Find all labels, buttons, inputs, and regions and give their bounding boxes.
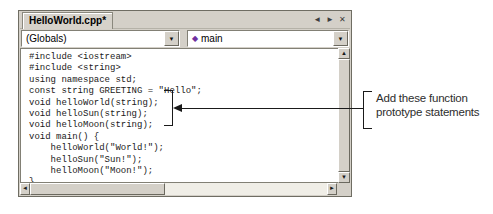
scope-dropdown[interactable]: (Globals) ▼ xyxy=(21,30,180,47)
callout-text-line2: prototype statements xyxy=(376,106,479,120)
scope-dropdown-button[interactable]: ▼ xyxy=(164,31,179,46)
chevron-right-icon: ► xyxy=(326,15,334,24)
arrow-right-icon: ► xyxy=(329,185,335,191)
tab-bar: HelloWorld.cpp* ◄ ► ✕ xyxy=(20,11,350,29)
callout-text: Add these function prototype statements xyxy=(376,92,479,119)
code-region: #include <iostream> #include <string> us… xyxy=(20,48,350,183)
tab-nav-buttons: ◄ ► ✕ xyxy=(313,15,346,25)
callout-bracket-code xyxy=(164,90,173,126)
code-line: void helloSun(string); xyxy=(29,109,338,120)
arrow-down-icon: ▼ xyxy=(341,174,347,180)
vertical-scrollbar[interactable]: ▲ ▼ xyxy=(338,48,350,183)
navigation-bar: (Globals) ▼ ◆main ▼ xyxy=(20,29,350,48)
callout-text-line1: Add these function xyxy=(376,92,479,106)
scroll-right-button[interactable]: ► xyxy=(327,183,337,195)
tab-helloworld-cpp[interactable]: HelloWorld.cpp* xyxy=(22,12,113,29)
code-editor[interactable]: #include <iostream> #include <string> us… xyxy=(20,48,338,183)
tab-label: HelloWorld.cpp* xyxy=(29,15,106,26)
close-button[interactable]: ✕ xyxy=(339,15,346,25)
scroll-tabs-right-button[interactable]: ► xyxy=(326,15,334,25)
member-dropdown[interactable]: ◆main ▼ xyxy=(187,30,349,47)
horizontal-scrollbar[interactable]: ◄ ► xyxy=(20,183,337,195)
editor-window: HelloWorld.cpp* ◄ ► ✕ (Globals) ▼ ◆main … xyxy=(18,10,352,197)
scope-dropdown-value: (Globals) xyxy=(26,33,67,44)
arrow-left-icon: ◄ xyxy=(22,185,28,191)
member-dropdown-value: main xyxy=(201,33,223,44)
chevron-down-icon: ▼ xyxy=(338,36,344,42)
code-line: helloWorld("World!"); xyxy=(29,143,338,154)
code-line: helloMoon("Moon!"); xyxy=(29,166,338,177)
scroll-down-button[interactable]: ▼ xyxy=(338,172,350,183)
chevron-left-icon: ◄ xyxy=(313,15,321,24)
code-line: void main() { xyxy=(29,132,338,143)
scroll-tabs-left-button[interactable]: ◄ xyxy=(313,15,321,25)
member-dropdown-button[interactable]: ▼ xyxy=(333,31,348,46)
code-line: using namespace std; xyxy=(29,75,338,86)
callout-bracket-text xyxy=(363,91,372,129)
code-line: #include <iostream> xyxy=(29,52,338,63)
code-line: void helloMoon(string); xyxy=(29,120,338,131)
code-line: const string GREETING = "Hello"; xyxy=(29,86,338,97)
horizontal-scrollbar-thumb[interactable] xyxy=(30,183,165,195)
chevron-down-icon: ▼ xyxy=(169,36,175,42)
close-icon: ✕ xyxy=(339,15,346,24)
method-icon: ◆ xyxy=(192,31,198,46)
code-line: #include <string> xyxy=(29,63,338,74)
scrollbar-corner xyxy=(337,183,350,195)
vertical-scrollbar-thumb[interactable] xyxy=(338,59,350,172)
scroll-left-button[interactable]: ◄ xyxy=(20,183,30,195)
arrow-up-icon: ▲ xyxy=(341,50,347,56)
scroll-up-button[interactable]: ▲ xyxy=(338,48,350,59)
code-line: helloSun("Sun!"); xyxy=(29,155,338,166)
callout-arrow-line xyxy=(181,108,364,110)
